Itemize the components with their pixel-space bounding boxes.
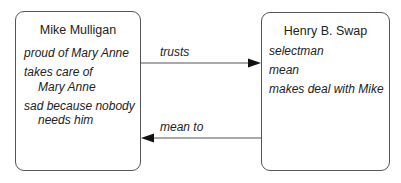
edge-label-mean-to: mean to — [160, 120, 203, 134]
edge-label-trusts: trusts — [160, 45, 189, 59]
edge-trusts-arrow — [141, 59, 261, 68]
edges-layer — [0, 0, 401, 183]
edge-mean-to-arrow — [141, 134, 261, 143]
